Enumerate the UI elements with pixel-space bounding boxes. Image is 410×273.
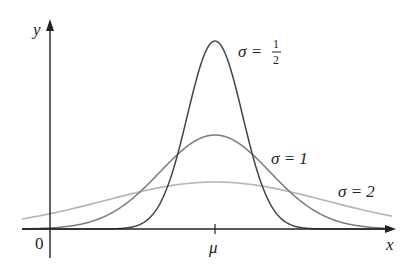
annotation-sigma-half: σ = 1 2 <box>238 37 281 67</box>
curve-sigma-half <box>22 41 392 229</box>
mu-label: μ <box>208 238 218 257</box>
origin-label: 0 <box>35 234 44 253</box>
annotation-sigma-1: σ = 1 <box>271 149 308 168</box>
x-axis-arrow-icon <box>385 225 396 233</box>
svg-text:σ =: σ = <box>238 42 262 61</box>
y-axis-arrow-icon <box>46 19 54 31</box>
svg-text:2: 2 <box>273 53 279 67</box>
annotation-sigma-2: σ = 2 <box>338 182 375 201</box>
normal-distribution-chart: y x 0 μ σ = 1 2 σ = 1 σ = 2 <box>0 0 410 273</box>
curve-sigma-2 <box>22 182 392 219</box>
svg-text:1: 1 <box>273 37 279 51</box>
y-axis-label: y <box>31 20 41 39</box>
x-axis-label: x <box>385 235 394 254</box>
